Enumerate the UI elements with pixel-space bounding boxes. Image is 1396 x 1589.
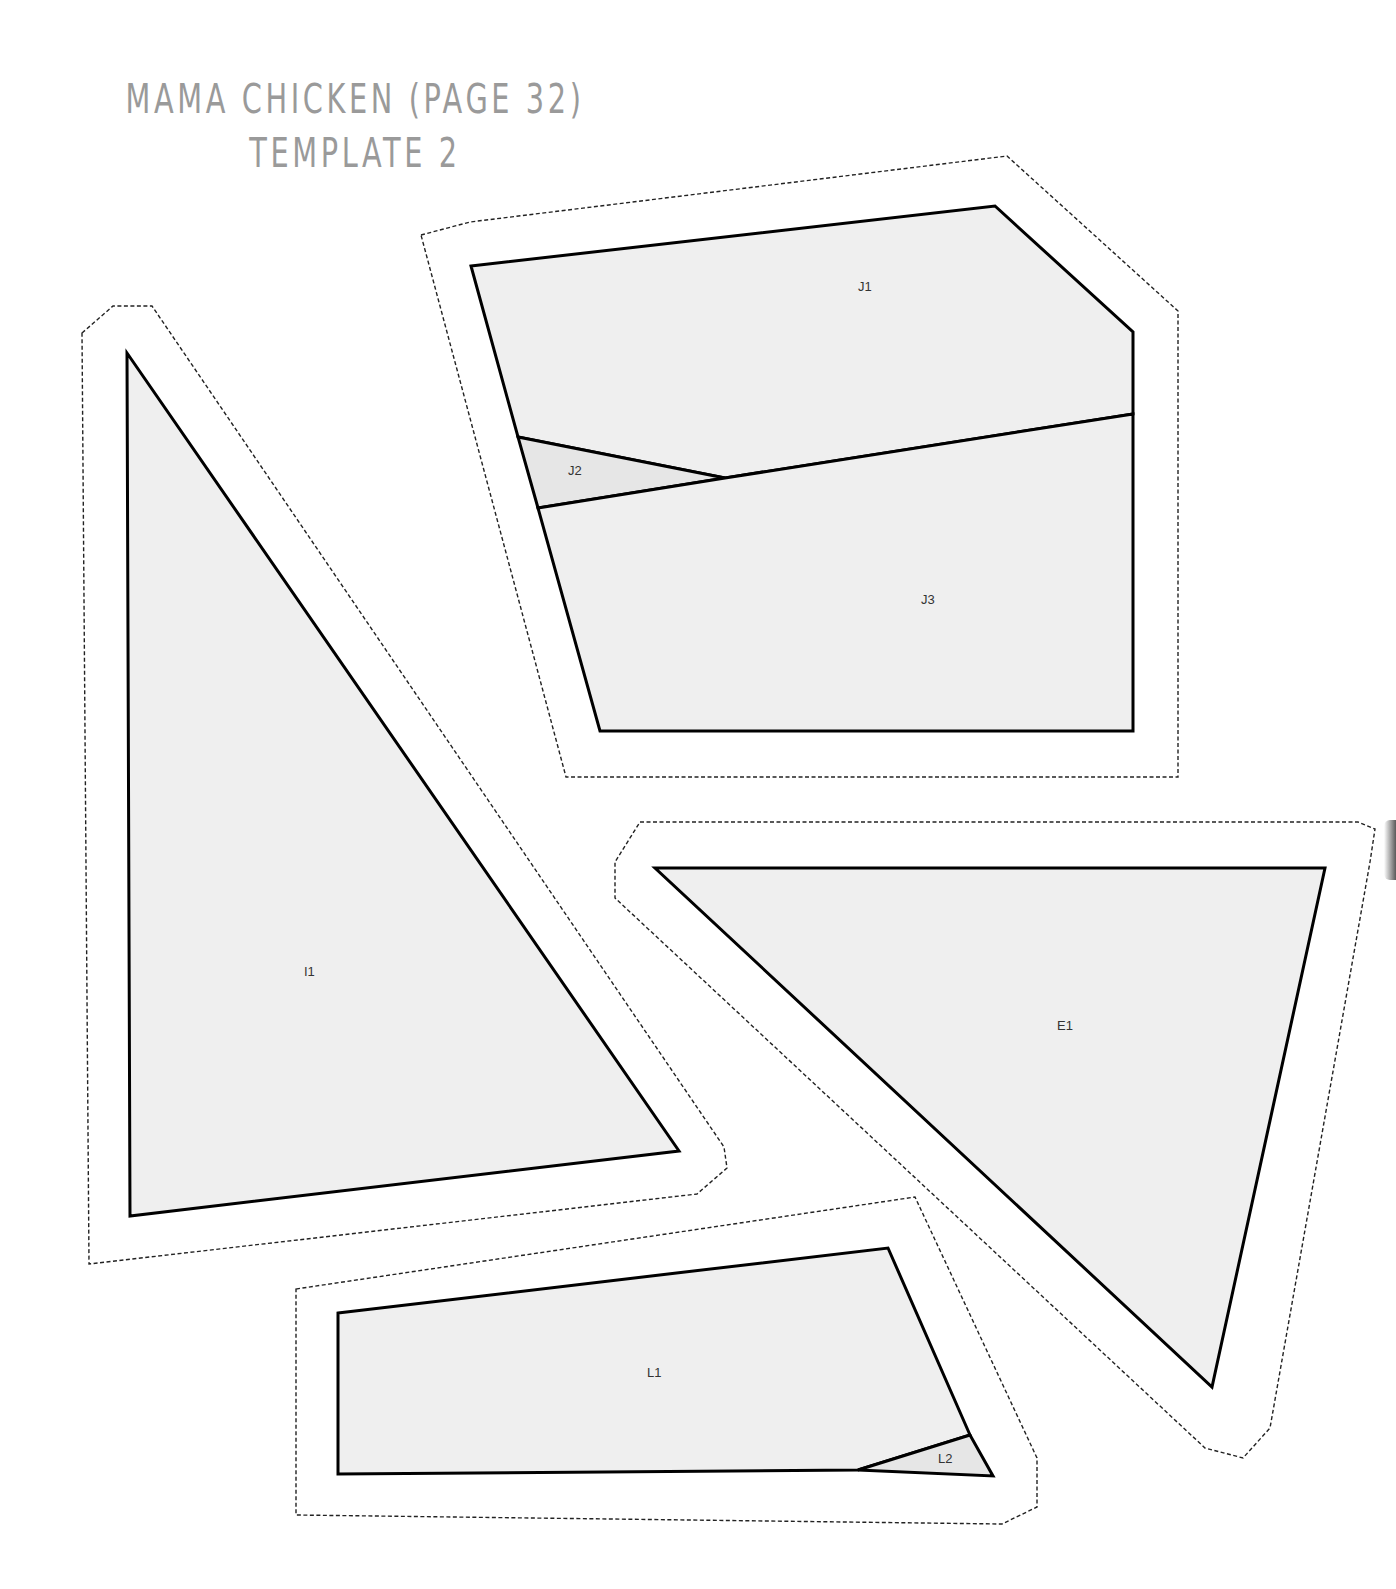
label-j2: J2 [568, 463, 582, 478]
template-piece-j: J1 J2 J3 [421, 156, 1178, 777]
template-piece-l: L1 L2 [296, 1197, 1037, 1524]
label-l2: L2 [938, 1451, 952, 1466]
label-j1: J1 [858, 279, 872, 294]
label-i1: I1 [304, 964, 315, 979]
section-l1 [338, 1248, 970, 1474]
label-j3: J3 [921, 592, 935, 607]
label-l1: L1 [647, 1365, 661, 1380]
page-edge-shadow [1384, 820, 1396, 880]
label-e1: E1 [1057, 1018, 1073, 1033]
